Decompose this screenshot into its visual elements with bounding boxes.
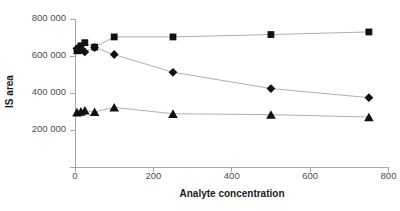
data-point-triangle <box>266 110 276 119</box>
x-tick-label: 200 <box>133 170 173 181</box>
x-tick-label: 800 <box>369 170 400 181</box>
chart-series <box>72 103 374 121</box>
series-line <box>77 47 369 97</box>
data-point-diamond <box>90 43 99 52</box>
y-tick-mark <box>70 93 75 94</box>
y-tick-label: 800 000 <box>32 13 66 23</box>
data-point-triangle <box>80 106 90 115</box>
y-tick-mark <box>70 130 75 131</box>
chart-series <box>74 29 373 55</box>
data-point-triangle <box>168 109 178 118</box>
data-point-square <box>170 34 177 41</box>
chart-container: 200 000400 000600 000800 000 02004006008… <box>0 0 400 211</box>
y-tick-label: 200 000 <box>32 124 66 134</box>
data-point-square <box>366 29 373 36</box>
data-point-square <box>76 45 83 52</box>
data-point-triangle <box>76 107 86 116</box>
y-tick-mark <box>70 56 75 57</box>
plot-area: 200 000400 000600 000800 000 02004006008… <box>0 0 400 211</box>
x-tick-label: 600 <box>290 170 330 181</box>
series-line <box>77 32 369 51</box>
data-point-diamond <box>169 68 178 77</box>
data-point-diamond <box>76 46 85 55</box>
y-tick-label: 400 000 <box>32 87 66 97</box>
y-tick-label: 600 000 <box>32 50 66 60</box>
y-axis-line <box>75 19 76 168</box>
x-tick-label: 400 <box>212 170 252 181</box>
data-point-diamond <box>80 48 89 57</box>
data-point-triangle <box>109 103 119 112</box>
data-point-diamond <box>365 93 374 102</box>
data-point-diamond <box>73 44 82 53</box>
data-point-square <box>268 31 275 38</box>
y-axis-title: IS area <box>4 57 15 127</box>
data-point-triangle <box>72 108 82 117</box>
data-point-square <box>91 44 98 51</box>
data-point-square <box>81 39 88 46</box>
chart-series <box>73 43 374 102</box>
data-point-diamond <box>267 84 276 93</box>
data-point-diamond <box>110 50 119 59</box>
y-tick-mark <box>70 19 75 20</box>
data-point-triangle <box>90 107 100 116</box>
x-axis-title: Analyte concentration <box>75 188 389 199</box>
data-point-square <box>77 42 84 49</box>
series-line <box>77 107 369 117</box>
data-point-square <box>111 34 118 41</box>
data-point-triangle <box>364 113 374 122</box>
x-tick-label: 0 <box>55 170 95 181</box>
